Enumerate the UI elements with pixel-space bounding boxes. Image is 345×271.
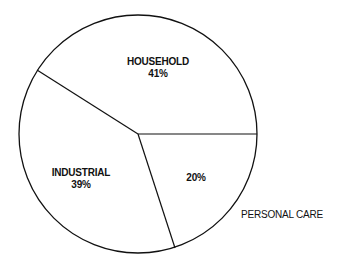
slice-value-personal-care: 20% [181,172,211,184]
industrial-name: INDUSTRIAL [41,167,121,179]
slice-label-industrial: INDUSTRIAL 39% [41,167,121,191]
slice-label-household: HOUSEHOLD 41% [118,56,198,80]
slice-name-personal-care: PERSONAL CARE [241,209,323,221]
household-value: 41% [118,68,198,80]
pie-chart [0,0,345,271]
industrial-value: 39% [41,179,121,191]
household-name: HOUSEHOLD [118,56,198,68]
